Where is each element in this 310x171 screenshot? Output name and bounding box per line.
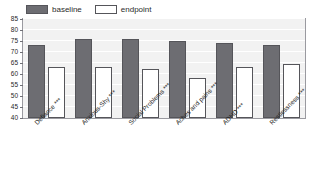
bar-group — [164, 19, 211, 118]
bar-baseline — [122, 39, 139, 118]
x-axis-labels: Defiance ***Anxious-Shy ***Social Proble… — [0, 119, 310, 171]
y-tick-label: 60 — [11, 71, 18, 78]
bar-group — [211, 19, 258, 118]
bar-group — [258, 19, 305, 118]
y-tick-label: 50 — [11, 93, 18, 100]
bars-layer — [23, 19, 305, 118]
legend-label-baseline: baseline — [52, 5, 82, 14]
y-axis: 40455055606570758085 — [0, 18, 20, 119]
legend-swatch-baseline — [26, 5, 48, 14]
legend-swatch-endpoint — [95, 5, 117, 14]
y-tick-label: 65 — [11, 60, 18, 67]
y-tick-label: 70 — [11, 49, 18, 56]
bar-baseline — [75, 39, 92, 118]
y-tick-label: 80 — [11, 27, 18, 34]
y-tick-label: 45 — [11, 104, 18, 111]
bar-group — [117, 19, 164, 118]
y-tick-label: 55 — [11, 82, 18, 89]
y-tick-label: 75 — [11, 38, 18, 45]
bar-group — [23, 19, 70, 118]
bar-baseline — [169, 41, 186, 118]
chart-screenshot: baseline endpoint 40455055606570758085 D… — [0, 0, 310, 171]
chart-legend: baseline endpoint — [26, 3, 152, 15]
legend-label-endpoint: endpoint — [121, 5, 152, 14]
bar-baseline — [263, 45, 280, 118]
bar-baseline — [28, 45, 45, 118]
bar-group — [70, 19, 117, 118]
y-tick-label: 85 — [11, 16, 18, 23]
legend-entry-baseline: baseline — [26, 5, 82, 14]
legend-entry-endpoint: endpoint — [95, 5, 152, 14]
bar-baseline — [216, 43, 233, 118]
